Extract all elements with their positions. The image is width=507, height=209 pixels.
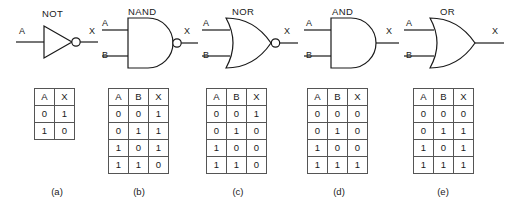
table-row: 0 1 1 xyxy=(414,123,474,140)
gate-symbol-nor: NOR A B X xyxy=(200,4,300,78)
gate-symbol-or: OR A B X xyxy=(400,4,507,78)
table-cell: 1 xyxy=(149,123,169,140)
caption-e: (e) xyxy=(400,186,486,197)
truth-table-and: A B X 0 0 0 0 1 0 1 xyxy=(307,88,368,174)
nor-body xyxy=(226,18,271,68)
table-cell: 1 xyxy=(454,140,474,157)
truth-table-nand-wrap: A B X 0 0 1 0 1 1 1 xyxy=(108,88,169,174)
col-header: B xyxy=(328,89,348,106)
table-cell: 0 xyxy=(227,140,247,157)
truth-table-nand: A B X 0 0 1 0 1 1 1 xyxy=(108,88,169,174)
table-cell: 0 xyxy=(207,106,227,123)
table-cell: 0 xyxy=(247,157,267,174)
gate-symbol-and: AND A B X xyxy=(300,4,400,78)
table-cell: 0 xyxy=(414,123,434,140)
col-header: A xyxy=(414,89,434,106)
table-header-row: A B X xyxy=(207,89,267,106)
col-header: B xyxy=(227,89,247,106)
table-row: 0 1 0 xyxy=(308,123,368,140)
table-row: 0 1 xyxy=(35,106,75,123)
nor-inversion-bubble xyxy=(271,39,279,47)
table-header-row: A B X xyxy=(308,89,368,106)
gate-symbol-not: NOT A X xyxy=(14,4,100,78)
truth-table-not: A X 0 1 1 0 xyxy=(34,88,75,140)
truth-table-nor-wrap: A B X 0 0 1 0 1 0 1 xyxy=(206,88,267,174)
table-row: 0 0 1 xyxy=(109,106,169,123)
nand-gate-drawing xyxy=(100,4,200,78)
col-header: X xyxy=(348,89,368,106)
table-cell: 0 xyxy=(414,106,434,123)
table-cell: 1 xyxy=(55,106,75,123)
table-row: 1 1 1 xyxy=(414,157,474,174)
or-body xyxy=(430,18,475,68)
table-row: 1 0 0 xyxy=(308,140,368,157)
table-cell: 1 xyxy=(109,140,129,157)
table-cell: 0 xyxy=(348,140,368,157)
col-header: A xyxy=(308,89,328,106)
col-header: X xyxy=(55,89,75,106)
table-cell: 1 xyxy=(414,140,434,157)
table-cell: 1 xyxy=(414,157,434,174)
table-cell: 1 xyxy=(129,123,149,140)
gate-cell-and: AND A B X A B X xyxy=(300,0,400,209)
table-cell: 1 xyxy=(129,157,149,174)
table-header-row: A B X xyxy=(109,89,169,106)
table-cell: 1 xyxy=(434,157,454,174)
table-row: 1 1 1 xyxy=(308,157,368,174)
table-row: 1 1 0 xyxy=(207,157,267,174)
caption-d: (d) xyxy=(300,186,378,197)
truth-table-not-wrap: A X 0 1 1 0 xyxy=(34,88,75,140)
table-cell: 1 xyxy=(308,157,328,174)
table-cell: 0 xyxy=(434,106,454,123)
or-gate-drawing xyxy=(400,4,507,78)
table-cell: 0 xyxy=(109,106,129,123)
caption-a: (a) xyxy=(14,186,100,197)
table-cell: 1 xyxy=(454,157,474,174)
table-cell: 0 xyxy=(149,157,169,174)
table-cell: 1 xyxy=(109,157,129,174)
table-header-row: A X xyxy=(35,89,75,106)
table-cell: 1 xyxy=(328,157,348,174)
gate-cell-not: NOT A X A X 0 xyxy=(14,0,100,209)
table-cell: 0 xyxy=(328,106,348,123)
table-cell: 1 xyxy=(149,106,169,123)
truth-table-or-wrap: A B X 0 0 0 0 1 1 1 xyxy=(413,88,474,174)
table-cell: 1 xyxy=(434,123,454,140)
col-header: X xyxy=(454,89,474,106)
table-cell: 1 xyxy=(247,106,267,123)
table-cell: 0 xyxy=(109,123,129,140)
table-cell: 0 xyxy=(308,106,328,123)
table-row: 0 0 0 xyxy=(308,106,368,123)
table-cell: 0 xyxy=(55,123,75,140)
table-cell: 1 xyxy=(35,123,55,140)
table-cell: 1 xyxy=(308,140,328,157)
and-gate-drawing xyxy=(300,4,400,78)
truth-table-or: A B X 0 0 0 0 1 1 1 xyxy=(413,88,474,174)
table-cell: 0 xyxy=(247,123,267,140)
not-inversion-bubble xyxy=(72,38,80,46)
nor-gate-drawing xyxy=(200,4,300,78)
table-row: 0 0 1 xyxy=(207,106,267,123)
table-row: 1 0 1 xyxy=(414,140,474,157)
not-gate-drawing xyxy=(14,4,100,78)
table-cell: 0 xyxy=(35,106,55,123)
table-cell: 0 xyxy=(308,123,328,140)
truth-table-nor: A B X 0 0 1 0 1 0 1 xyxy=(206,88,267,174)
table-row: 0 1 1 xyxy=(109,123,169,140)
table-cell: 0 xyxy=(207,123,227,140)
table-cell: 0 xyxy=(247,140,267,157)
table-header-row: A B X xyxy=(414,89,474,106)
gate-cell-or: OR A B X A B X xyxy=(400,0,507,209)
table-cell: 1 xyxy=(207,157,227,174)
table-row: 1 0 1 xyxy=(109,140,169,157)
table-cell: 0 xyxy=(348,123,368,140)
table-row: 1 0 0 xyxy=(207,140,267,157)
logic-gates-figure: NOT A X A X 0 xyxy=(0,0,507,209)
table-cell: 1 xyxy=(227,123,247,140)
not-triangle-body xyxy=(44,26,72,58)
table-cell: 1 xyxy=(328,123,348,140)
table-cell: 0 xyxy=(328,140,348,157)
gate-cell-nand: NAND A B X A B X xyxy=(100,0,200,209)
table-cell: 1 xyxy=(348,157,368,174)
col-header: A xyxy=(35,89,55,106)
